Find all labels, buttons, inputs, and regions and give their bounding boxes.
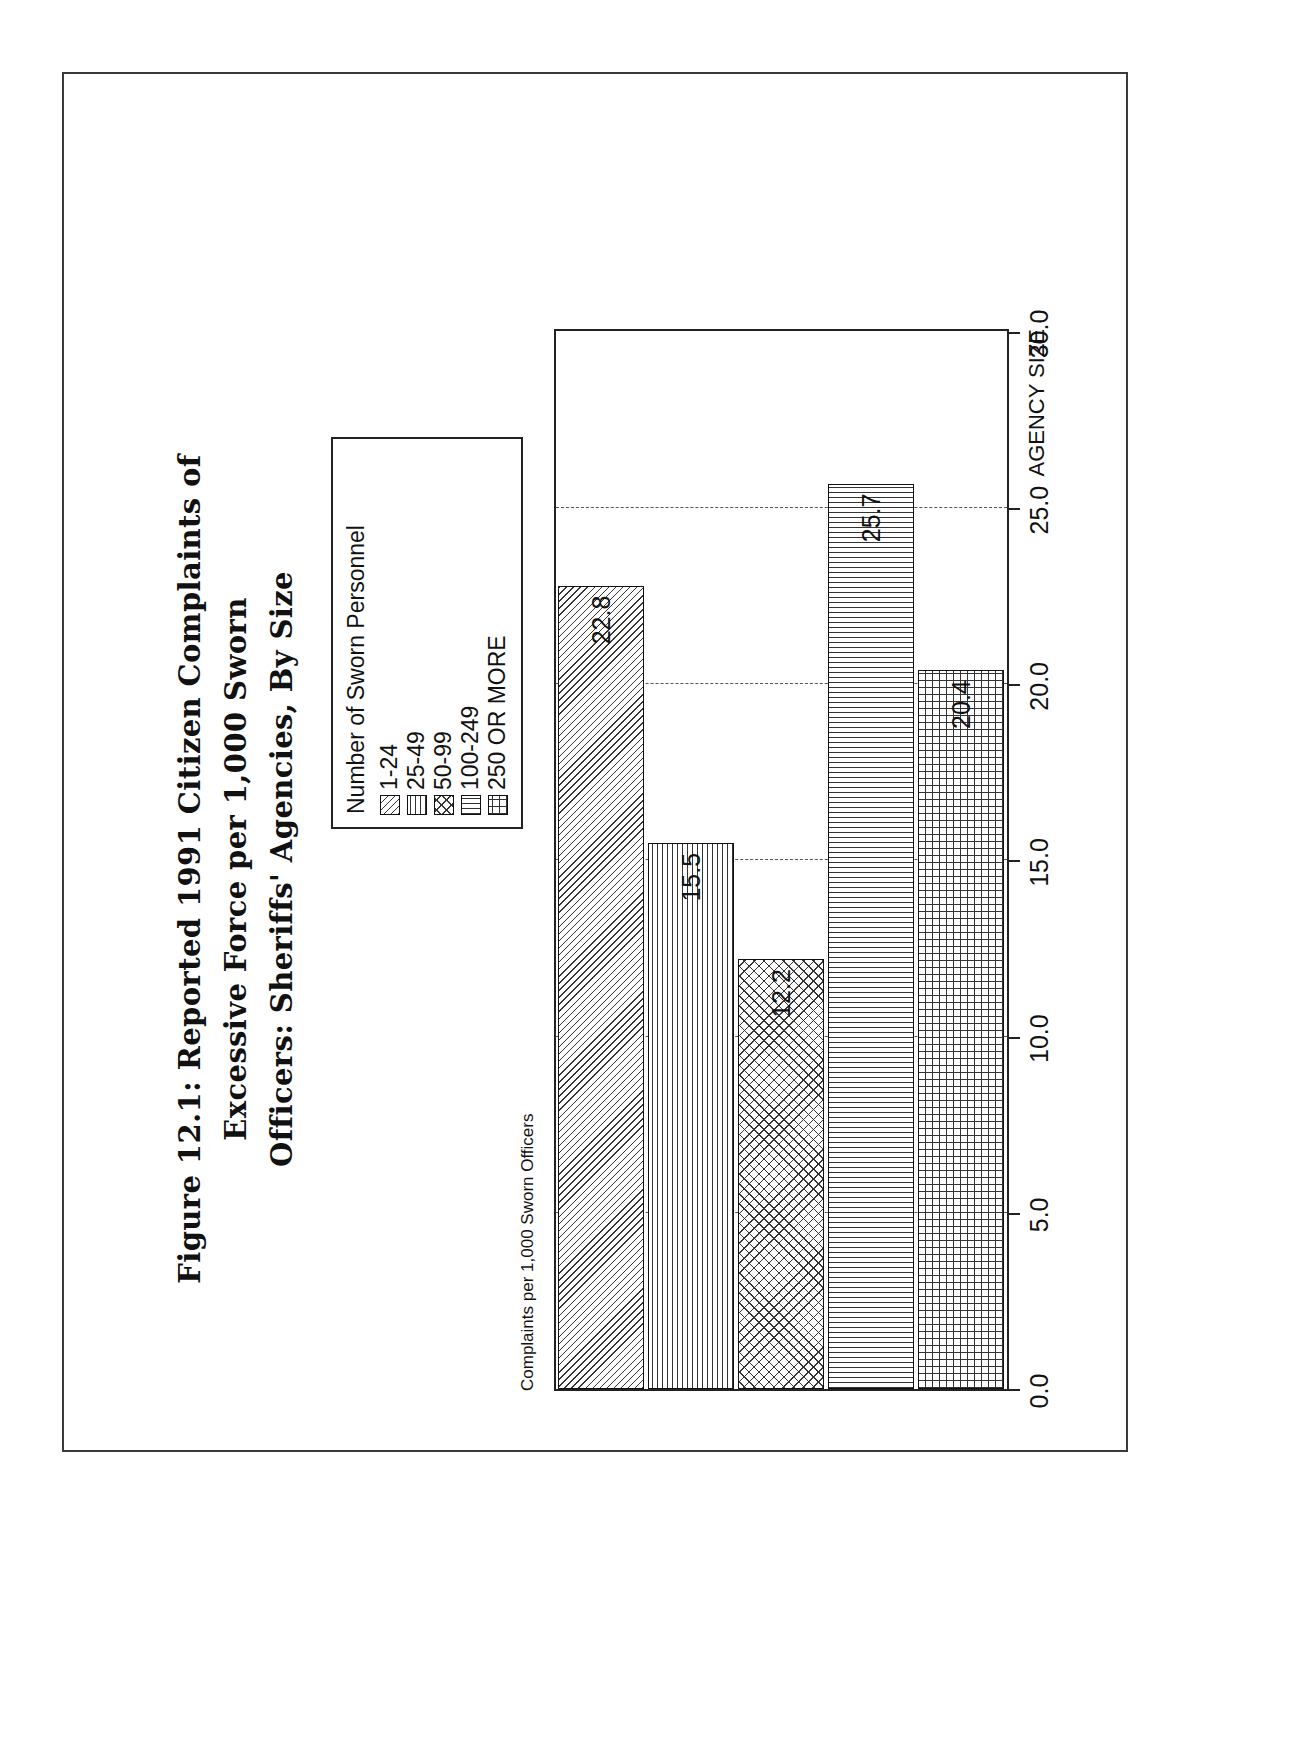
- tick-label: 0.0: [1025, 1373, 1054, 1408]
- bar-value-label: 12.2: [766, 959, 795, 1018]
- category-axis-title: AGENCY SIZE: [1024, 329, 1050, 477]
- tick-mark: [1009, 1212, 1020, 1214]
- figure-title: Figure 12.1: Reported 1991 Citizen Compl…: [167, 289, 305, 1449]
- tick-label: 10.0: [1025, 1014, 1054, 1063]
- tick-label: 20.0: [1025, 662, 1054, 711]
- legend-swatch-diagonal-crosshatch-icon: [433, 795, 453, 815]
- legend-label-50-99: 50-99: [430, 731, 457, 790]
- figure-title-line-3: Officers: Sheriffs' Agencies, By Size: [259, 289, 305, 1449]
- bar-value-label: 22.8: [586, 585, 615, 644]
- legend-swatch-horizontal-hatch-icon: [406, 795, 426, 815]
- tick-mark: [1009, 332, 1020, 334]
- legend-label-25-49: 25-49: [403, 731, 430, 790]
- tick-mark: [1009, 1389, 1020, 1391]
- rotated-figure-stage: Figure 12.1: Reported 1991 Citizen Compl…: [0, 0, 1297, 1737]
- bar-value-label: 20.4: [946, 670, 975, 729]
- figure: Figure 12.1: Reported 1991 Citizen Compl…: [149, 219, 1149, 1519]
- tick-mark: [1009, 684, 1020, 686]
- tick-label: 15.0: [1025, 838, 1054, 887]
- tick-mark: [1009, 1036, 1020, 1038]
- legend-label-100-249: 100-249: [457, 705, 484, 789]
- tick-label: 5.0: [1025, 1197, 1054, 1232]
- bar-50-99: [737, 959, 823, 1389]
- bar-value-label: 25.7: [856, 483, 885, 542]
- legend-label-250-or-more: 250 OR MORE: [484, 635, 511, 790]
- plot-inner: 22.815.512.225.720.4: [556, 331, 1007, 1389]
- legend-title: Number of Sworn Personnel: [343, 451, 370, 814]
- legend-item-50-99: 50-99: [430, 451, 457, 815]
- chart-legend: Number of Sworn Personnel 1-24 25-49 50-…: [331, 437, 523, 829]
- legend-label-1-24: 1-24: [376, 743, 403, 789]
- bar-250-or-more: [917, 670, 1003, 1389]
- tick-label: 25.0: [1025, 485, 1054, 534]
- plot-area: 22.815.512.225.720.4: [554, 329, 1009, 1391]
- bar-100-249: [827, 483, 913, 1388]
- value-axis-title: Complaints per 1,000 Sworn Officers: [518, 1113, 538, 1390]
- tick-mark: [1009, 860, 1020, 862]
- gridline: [556, 507, 1007, 508]
- bar-25-49: [647, 842, 733, 1388]
- figure-title-line-2: Excessive Force per 1,000 Sworn: [213, 289, 259, 1449]
- legend-item-250-or-more: 250 OR MORE: [484, 451, 511, 815]
- bar-value-label: 15.5: [676, 842, 705, 901]
- legend-swatch-vertical-hatch-icon: [460, 795, 480, 815]
- legend-item-25-49: 25-49: [403, 451, 430, 815]
- legend-swatch-diagonal-hatch-icon: [379, 795, 399, 815]
- legend-item-100-249: 100-249: [457, 451, 484, 815]
- legend-item-1-24: 1-24: [376, 451, 403, 815]
- figure-title-line-1: Figure 12.1: Reported 1991 Citizen Compl…: [167, 289, 213, 1449]
- tick-mark: [1009, 508, 1020, 510]
- plot-area-wrapper: Complaints per 1,000 Sworn Officers 22.8…: [554, 329, 1054, 1391]
- value-axis-ticks: 30.025.020.015.010.05.00.0: [1009, 329, 1055, 1391]
- legend-swatch-grid-hatch-icon: [487, 795, 507, 815]
- bar-1-24: [557, 585, 643, 1388]
